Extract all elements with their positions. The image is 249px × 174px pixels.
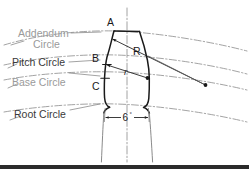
body-right-line (149, 113, 152, 162)
tooth-left-flank (104, 31, 114, 107)
leader-addendum (71, 32, 101, 33)
radius-r-center-point (146, 76, 150, 80)
angle-value-label: 6 (123, 112, 129, 123)
tooth-right-flank (140, 31, 150, 107)
point-b-label: B (92, 52, 99, 64)
radius-R-label: R (133, 45, 141, 57)
body-left-line (101, 113, 103, 162)
root-circle-label: Root Circle (14, 108, 66, 120)
leader-base (69, 73, 100, 76)
radius-R-center-point (204, 83, 208, 87)
angle-ext-line-right (148, 108, 149, 122)
base-circle-label: Base Circle (12, 76, 66, 88)
addendum-circle-label-line2: Circle (33, 38, 60, 50)
radius-R-center-ray (148, 56, 205, 85)
footer-bar (0, 165, 249, 169)
angle-degree-symbol: ° (130, 111, 133, 117)
gear-tooth-diagram: Addendum Circle Pitch Circle Base Circle… (0, 0, 249, 174)
pitch-circle-label: Pitch Circle (12, 56, 65, 68)
diagram-canvas: Addendum Circle Pitch Circle Base Circle… (0, 0, 249, 174)
point-c-label: C (92, 80, 100, 92)
point-a-label: A (107, 16, 114, 28)
